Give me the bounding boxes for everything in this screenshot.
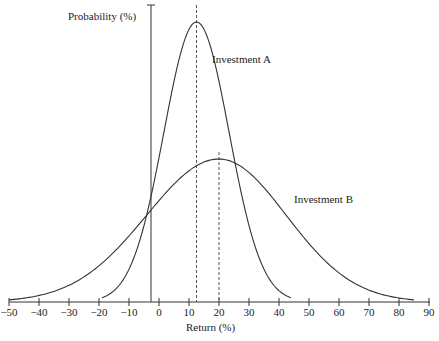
x-tick-label: 30 [244, 306, 255, 318]
x-axis-label: Return (%) [186, 321, 235, 333]
x-tick-label: −50 [0, 306, 17, 318]
curve-investment-b [9, 159, 414, 300]
y-axis-label: Probability (%) [68, 10, 136, 22]
axes [9, 5, 430, 306]
x-tick-label: 0 [156, 306, 162, 318]
probability-distribution-chart [0, 0, 439, 341]
x-tick-label: 20 [214, 306, 225, 318]
mean-lines [197, 5, 220, 302]
x-tick-label: 40 [274, 306, 285, 318]
series-label-investment-b: Investment B [294, 193, 353, 205]
x-tick-label: −30 [60, 306, 77, 318]
x-tick-label: 60 [334, 306, 345, 318]
x-tick-label: 80 [394, 306, 405, 318]
x-tick-label: 90 [424, 306, 435, 318]
x-tick-label: −40 [30, 306, 47, 318]
x-tick-label: 70 [364, 306, 375, 318]
x-tick-label: 10 [184, 306, 195, 318]
x-tick-label: −10 [120, 306, 137, 318]
x-tick-label: −20 [90, 306, 107, 318]
x-tick-label: 50 [304, 306, 315, 318]
series-label-investment-a: Investment A [212, 53, 271, 65]
